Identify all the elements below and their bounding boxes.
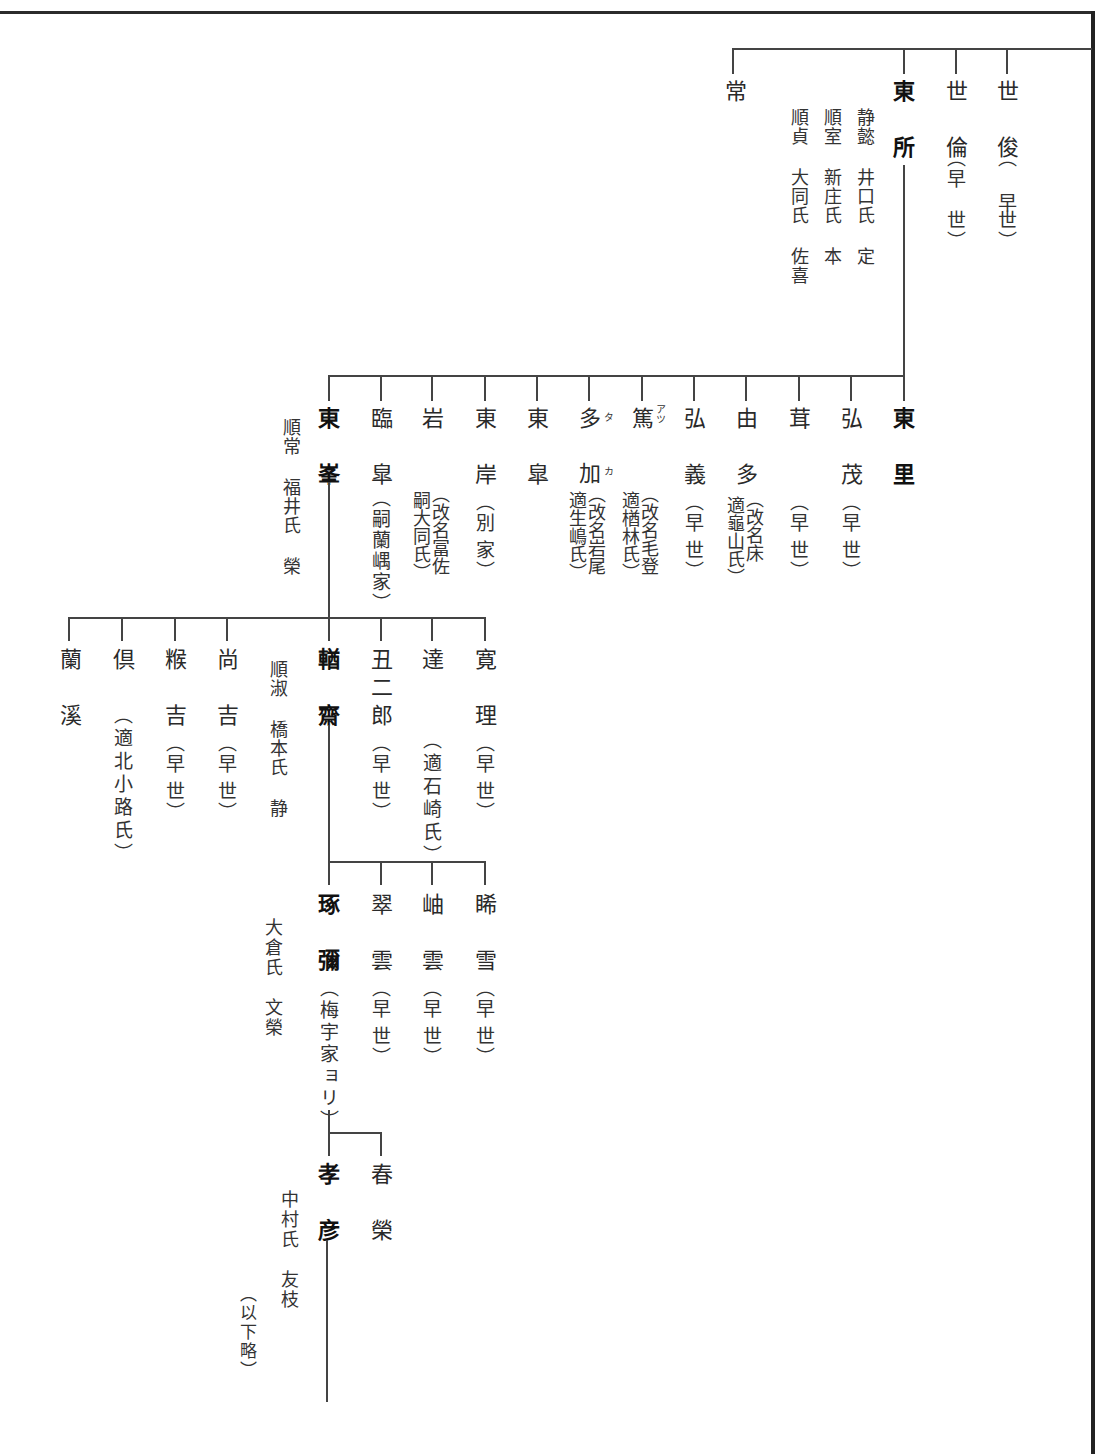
member-note: （適北小路氏） xyxy=(112,705,131,866)
member-note: （早 xyxy=(683,492,702,534)
connector xyxy=(850,375,852,401)
connector xyxy=(588,375,590,401)
descent-line xyxy=(326,1240,328,1402)
connector xyxy=(745,375,747,401)
connector xyxy=(328,375,330,401)
connector xyxy=(641,375,643,401)
genealogy-page: 世俊 （早 世） 世倫 （早 世） 東所 静懿 井口氏 定 順室 新庄氏 本 順… xyxy=(0,0,1099,1454)
member-note: （早 xyxy=(421,978,440,1020)
connector xyxy=(955,48,957,74)
member-note: 世） xyxy=(683,540,702,582)
member-name-heir: 東峯 xyxy=(316,407,338,519)
spouse: 大倉氏 文榮 xyxy=(263,918,281,1038)
gen3-sibling-bar xyxy=(68,617,486,619)
spouse: 静懿 井口氏 定 xyxy=(855,108,873,266)
ruby-reading: カ xyxy=(602,466,612,476)
connector xyxy=(121,617,123,641)
spouse: 順室 新庄氏 本 xyxy=(822,108,840,266)
member-name: 岩 xyxy=(419,407,441,463)
page-border-right xyxy=(1091,11,1095,1454)
connector xyxy=(431,861,433,885)
member-note: （早 xyxy=(370,978,389,1020)
connector xyxy=(174,617,176,641)
member-note: （早 xyxy=(474,733,493,775)
member-name: 春榮 xyxy=(368,1163,390,1275)
descent-line xyxy=(328,1110,330,1134)
connector xyxy=(431,375,433,401)
omitted-note: （以下略） xyxy=(238,1285,255,1380)
member-note: （早 xyxy=(840,492,859,534)
spouse: 順貞 大同氏 佐喜 xyxy=(789,108,807,285)
member-name: 倶 xyxy=(110,648,132,704)
member-note: （早 xyxy=(474,978,493,1020)
member-note: （梅宇家ョリ） xyxy=(318,978,337,1132)
connector xyxy=(328,861,330,885)
member-name: 篤 xyxy=(629,407,651,463)
gen4-sibling-bar xyxy=(328,861,486,863)
connector xyxy=(484,617,486,641)
connector xyxy=(328,617,330,641)
member-name: 茸 xyxy=(786,407,808,463)
member-name-heir: 東所 xyxy=(891,80,913,192)
member-note: （早 xyxy=(788,492,807,534)
page-border-top xyxy=(0,11,1094,14)
gen1-sibling-bar xyxy=(732,48,1092,50)
connector xyxy=(380,1132,382,1156)
connector xyxy=(693,375,695,401)
connector xyxy=(380,861,382,885)
member-note: （早 xyxy=(216,733,235,775)
member-note: 世） xyxy=(840,540,859,582)
member-note: （早 xyxy=(164,733,183,775)
connector xyxy=(484,861,486,885)
spouse: 中村氏 友枝 xyxy=(279,1190,297,1310)
connector xyxy=(484,375,486,401)
member-name-heir: 輶齋 xyxy=(316,648,338,760)
member-note: 世） xyxy=(421,1026,440,1068)
descent-line xyxy=(328,725,330,862)
spouse: 順常 福井氏 榮 xyxy=(281,418,299,576)
ruby-reading: アツ xyxy=(654,404,664,424)
connector xyxy=(226,617,228,641)
connector xyxy=(431,617,433,641)
member-note: 世） xyxy=(474,781,493,823)
member-name: 東皐 xyxy=(524,407,546,519)
descent-line xyxy=(328,482,330,619)
member-note: 世） xyxy=(996,210,1015,252)
member-note: （早 xyxy=(945,148,964,190)
spouse: 順淑 橋本氏 静 xyxy=(268,660,286,818)
member-note: （改名床 適龜山氏） xyxy=(725,490,763,586)
member-note: 家） xyxy=(474,540,493,582)
member-note: 世） xyxy=(370,1026,389,1068)
member-note: （別 xyxy=(474,492,493,534)
connector xyxy=(536,375,538,401)
descent-line xyxy=(903,165,905,377)
member-name: 多 xyxy=(576,407,598,463)
connector xyxy=(1006,48,1008,74)
member-name-heir: 東里 xyxy=(891,407,913,519)
connector xyxy=(380,617,382,641)
member-note: （適石崎氏） xyxy=(421,730,440,868)
member-note: 世） xyxy=(788,540,807,582)
connector xyxy=(903,48,905,74)
member-note: （改名冨佐 嗣大同氏） xyxy=(411,485,449,581)
connector xyxy=(328,1132,330,1156)
member-note: 世） xyxy=(945,210,964,252)
member-note: （早 xyxy=(370,733,389,775)
member-name: 丑二郎 xyxy=(368,648,390,732)
member-note: 世） xyxy=(216,781,235,823)
member-note: （改名岩尾 適生嶋氏） xyxy=(567,485,605,581)
ruby-reading: タ xyxy=(602,412,612,422)
connector xyxy=(732,48,734,74)
connector xyxy=(798,375,800,401)
gen2-sibling-bar xyxy=(328,375,905,377)
member-note: （嗣蘭嵎家） xyxy=(370,488,389,614)
member-name: 常 xyxy=(722,80,744,136)
member-name: 蘭溪 xyxy=(57,648,79,760)
member-note: 世） xyxy=(164,781,183,823)
member-note: （改名毛登 適楢林氏） xyxy=(620,485,658,581)
member-note: 世） xyxy=(474,1026,493,1068)
member-note: 世） xyxy=(370,781,389,823)
gen5-sibling-bar xyxy=(328,1132,382,1134)
connector xyxy=(68,617,70,641)
connector xyxy=(903,375,905,401)
